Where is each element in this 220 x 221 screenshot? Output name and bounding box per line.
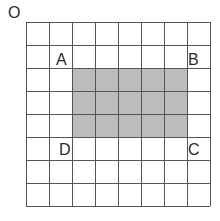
corner-label-c: C [188, 142, 200, 158]
corner-label-a: A [56, 52, 67, 68]
shaded-rectangle [72, 68, 187, 137]
corner-label-b: B [188, 52, 199, 68]
origin-label: O [8, 5, 20, 21]
corner-label-d: D [59, 142, 71, 158]
grid-diagram: O A B C D [0, 0, 220, 221]
grid-graphic [0, 0, 220, 221]
